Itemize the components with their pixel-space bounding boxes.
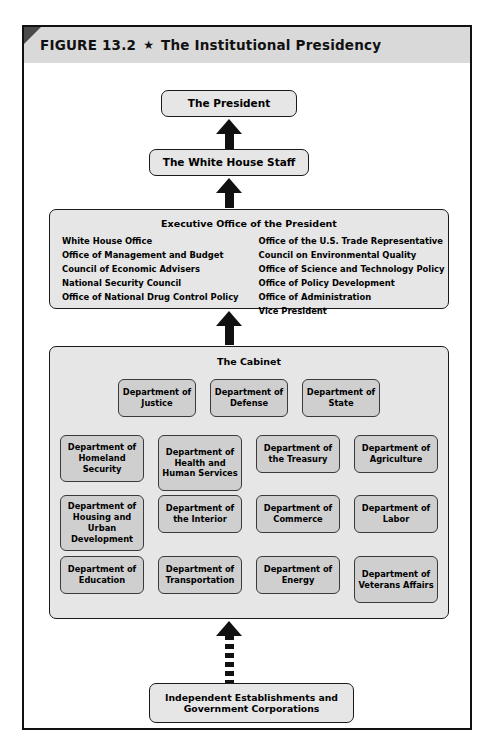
cabinet-row: Department of Education Department of Tr… xyxy=(50,556,448,603)
department-box: Department of Labor xyxy=(354,495,438,533)
arrow-to-white-house-staff-icon xyxy=(216,178,242,208)
department-box: Department of Housing and Urban Developm… xyxy=(60,495,144,551)
figure-frame: FIGURE 13.2 ★ The Institutional Presiden… xyxy=(22,25,472,730)
node-independent-establishments-label: Independent Establishments and Governmen… xyxy=(150,692,353,715)
arrow-shaft xyxy=(225,192,234,208)
eop-right-column: Office of the U.S. Trade Representative … xyxy=(249,236,445,318)
department-box: Department of the Interior xyxy=(158,495,242,533)
eop-item: Office of Science and Technology Policy xyxy=(259,264,445,276)
arrow-head xyxy=(216,178,242,193)
department-box: Department of Transportation xyxy=(158,556,242,594)
department-box: Department of Veterans Affairs xyxy=(354,556,438,603)
arrow-to-president-icon xyxy=(216,119,242,150)
department-box: Department of Education xyxy=(60,556,144,594)
figure-number-label: FIGURE 13.2 xyxy=(40,37,136,53)
eop-item: Council of Economic Advisers xyxy=(62,264,239,276)
eop-item: Council on Environmental Quality xyxy=(259,250,445,262)
cabinet-row: Department of Justice Department of Defe… xyxy=(50,379,448,417)
panel-cabinet-title: The Cabinet xyxy=(50,356,448,367)
department-box: Department of Justice xyxy=(118,379,196,417)
figure-title-text: The Institutional Presidency xyxy=(161,37,381,53)
eop-columns: White House Office Office of Management … xyxy=(50,236,448,318)
arrow-to-executive-office-icon xyxy=(216,311,242,345)
arrow-shaft xyxy=(225,133,234,150)
department-box: Department of State xyxy=(302,379,380,417)
eop-item: Office of National Drug Control Policy xyxy=(62,292,239,304)
arrow-shaft-dashed xyxy=(225,635,234,683)
node-the-president-label: The President xyxy=(188,97,270,110)
cabinet-row: Department of Homeland Security Departme… xyxy=(50,435,448,491)
arrow-shaft xyxy=(225,325,234,345)
eop-item: Office of Management and Budget xyxy=(62,250,239,262)
department-box: Department of the Treasury xyxy=(256,435,340,473)
department-box: Department of Defense xyxy=(210,379,288,417)
panel-executive-office-of-the-president: Executive Office of the President White … xyxy=(49,209,449,309)
org-chart-canvas: The President The White House Staff Exec… xyxy=(24,63,470,728)
node-white-house-staff: The White House Staff xyxy=(149,149,309,176)
dashed-arrow-to-cabinet-icon xyxy=(216,621,242,683)
department-box: Department of Commerce xyxy=(256,495,340,533)
eop-item: Vice President xyxy=(259,306,445,318)
node-independent-establishments: Independent Establishments and Governmen… xyxy=(149,683,354,723)
eop-item: White House Office xyxy=(62,236,239,248)
department-box: Department of Homeland Security xyxy=(60,435,144,482)
arrow-head xyxy=(216,311,242,326)
eop-item: National Security Council xyxy=(62,278,239,290)
department-box: Department of Agriculture xyxy=(354,435,438,473)
figure-title: FIGURE 13.2 ★ The Institutional Presiden… xyxy=(24,37,381,53)
star-icon: ★ xyxy=(143,39,154,51)
node-the-president: The President xyxy=(161,90,297,117)
cabinet-row: Department of Housing and Urban Developm… xyxy=(50,495,448,551)
eop-item: Office of Administration xyxy=(259,292,445,304)
department-box: Department of Energy xyxy=(256,556,340,594)
arrow-head xyxy=(216,119,242,134)
panel-eop-title: Executive Office of the President xyxy=(50,218,448,229)
figure-header-band: FIGURE 13.2 ★ The Institutional Presiden… xyxy=(24,27,470,63)
department-box: Department of Health and Human Services xyxy=(158,435,242,491)
corner-fold-decoration xyxy=(24,27,41,44)
panel-the-cabinet: The Cabinet Department of Justice Depart… xyxy=(49,346,449,619)
eop-item: Office of the U.S. Trade Representative xyxy=(259,236,445,248)
eop-item: Office of Policy Development xyxy=(259,278,445,290)
node-white-house-staff-label: The White House Staff xyxy=(163,156,296,169)
arrow-head xyxy=(216,621,242,636)
eop-left-column: White House Office Office of Management … xyxy=(62,236,239,318)
